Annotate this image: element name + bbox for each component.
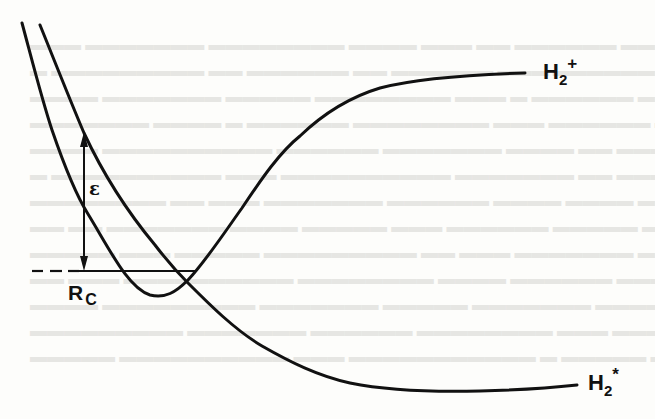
figure-canvas: ▬▬▬ ▬▬▬▬▬▬▬ ▬▬▬▬▬▬▬▬ ▬▬▬▬ ▬▬▬ ▬▬ ▬▬▬▬▬▬ … bbox=[0, 0, 655, 419]
arrowhead-down-icon bbox=[80, 256, 88, 271]
label-epsilon: ε bbox=[89, 180, 100, 198]
label-h2star: H2* bbox=[588, 372, 619, 394]
label-rc: RC bbox=[68, 282, 97, 303]
curve-h2star bbox=[40, 25, 577, 391]
label-h2plus: H2+ bbox=[543, 61, 577, 83]
